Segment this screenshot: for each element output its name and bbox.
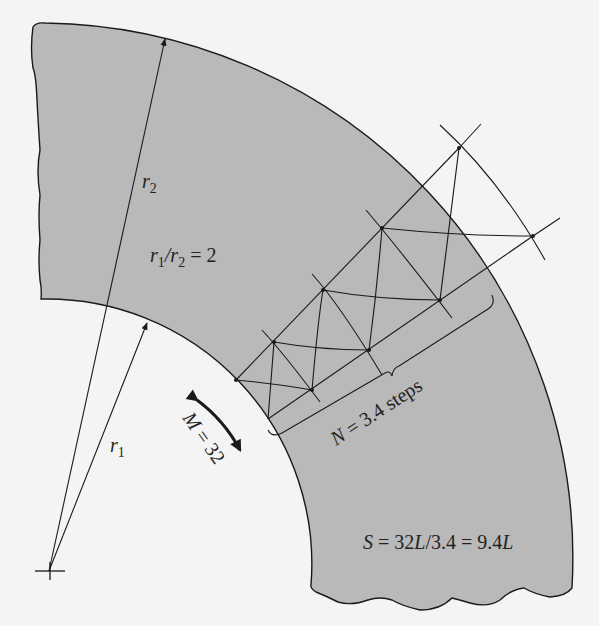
s-formula-label: S = 32L/3.4 = 9.4L (363, 531, 513, 553)
curvilinear-square-diagram: r2 r1/r2 = 2 r1 M = 32 N = 3.4 steps S =… (0, 0, 599, 626)
